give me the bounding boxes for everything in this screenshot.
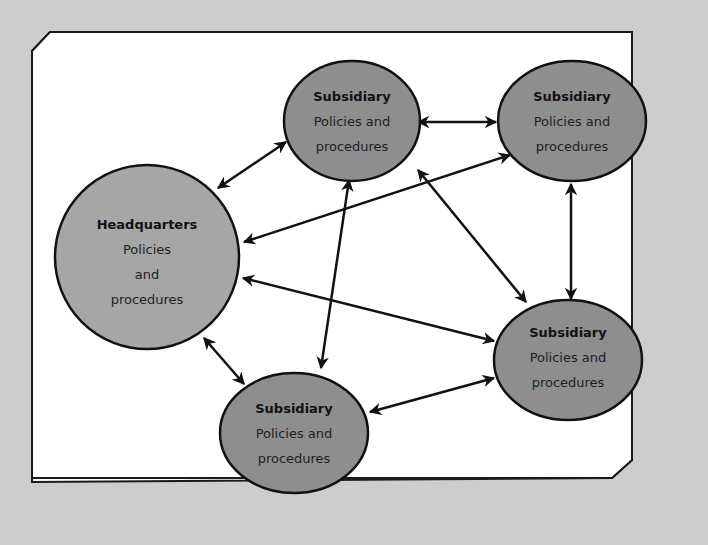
node-title: Subsidiary	[498, 320, 638, 345]
node-line: procedures	[77, 287, 217, 312]
node-line: Policies and	[224, 421, 364, 446]
node-title: Subsidiary	[224, 396, 364, 421]
node-subsidiary-top-right-label: Subsidiary Policies and procedures	[502, 84, 642, 159]
node-subsidiary-bottom-label: Subsidiary Policies and procedures	[224, 396, 364, 471]
node-headquarters-label: Headquarters Policies and procedures	[77, 212, 217, 312]
node-title: Headquarters	[77, 212, 217, 237]
node-line: Policies	[77, 237, 217, 262]
node-subsidiary-top-label: Subsidiary Policies and procedures	[282, 84, 422, 159]
node-line: and	[77, 262, 217, 287]
node-line: procedures	[282, 134, 422, 159]
node-subsidiary-right-label: Subsidiary Policies and procedures	[498, 320, 638, 395]
node-line: procedures	[224, 446, 364, 471]
node-line: Policies and	[502, 109, 642, 134]
node-line: Policies and	[282, 109, 422, 134]
node-line: procedures	[498, 370, 638, 395]
node-line: procedures	[502, 134, 642, 159]
node-title: Subsidiary	[282, 84, 422, 109]
node-line: Policies and	[498, 345, 638, 370]
node-title: Subsidiary	[502, 84, 642, 109]
